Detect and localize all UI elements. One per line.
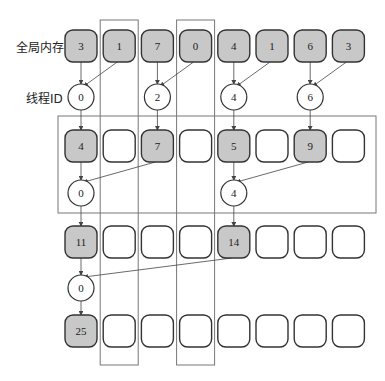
memory-cell [103,315,135,347]
memory-cell: 3 [65,30,97,62]
svg-text:5: 5 [231,140,237,152]
memory-cell [332,130,364,162]
memory-cell [141,315,173,347]
svg-text:0: 0 [193,40,199,52]
thread-node: 6 [297,84,323,110]
svg-text:4: 4 [78,140,84,152]
memory-cell [103,130,135,162]
svg-text:11: 11 [76,236,87,248]
svg-text:2: 2 [155,91,161,103]
thread-node: 0 [68,180,94,206]
svg-text:3: 3 [346,40,352,52]
svg-text:9: 9 [307,140,313,152]
svg-text:7: 7 [155,40,161,52]
svg-text:4: 4 [231,40,237,52]
memory-cell [180,130,212,162]
memory-cell: 25 [65,315,97,347]
memory-cell [294,315,326,347]
svg-text:4: 4 [231,187,237,199]
column-frame-1 [100,20,138,365]
memory-cell: 6 [294,30,326,62]
thread-node: 0 [68,275,94,301]
memory-cell [180,226,212,258]
memory-cell: 7 [141,130,173,162]
memory-cell: 14 [218,226,250,258]
memory-cell: 5 [218,130,250,162]
memory-cell: 4 [218,30,250,62]
memory-cell [141,226,173,258]
memory-cell: 1 [256,30,288,62]
memory-cell: 9 [294,130,326,162]
memory-cell [256,315,288,347]
memory-cell [332,315,364,347]
memory-cell [103,226,135,258]
svg-text:7: 7 [155,140,161,152]
svg-text:0: 0 [78,91,84,103]
thread-node: 4 [221,180,247,206]
svg-text:0: 0 [78,187,84,199]
svg-text:0: 0 [78,282,84,294]
parallel-reduction-diagram: 317041634759111425 0246040 [0,0,385,381]
svg-text:3: 3 [78,40,84,52]
svg-text:1: 1 [269,40,275,52]
memory-cell [332,226,364,258]
svg-text:6: 6 [307,40,313,52]
memory-cell [256,226,288,258]
column-frame-3 [177,20,215,365]
memory-cell [256,130,288,162]
svg-text:6: 6 [307,91,313,103]
svg-text:1: 1 [116,40,122,52]
memory-cell: 11 [65,226,97,258]
thread-node: 2 [144,84,170,110]
svg-text:25: 25 [76,325,88,337]
svg-text:14: 14 [228,236,240,248]
step-frame [58,116,376,213]
memory-cell: 7 [141,30,173,62]
memory-cell [180,315,212,347]
memory-cell: 4 [65,130,97,162]
thread-node: 0 [68,84,94,110]
thread-node: 4 [221,84,247,110]
memory-cell: 3 [332,30,364,62]
svg-text:4: 4 [231,91,237,103]
memory-cell: 0 [180,30,212,62]
memory-cell: 1 [103,30,135,62]
memory-cell [218,315,250,347]
memory-cell [294,226,326,258]
